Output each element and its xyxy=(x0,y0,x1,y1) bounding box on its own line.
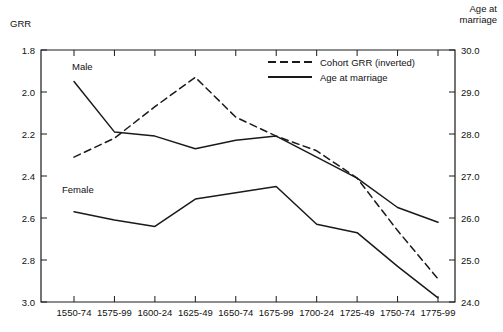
series-line-age-at-marriage-male xyxy=(74,82,438,223)
plot-frame xyxy=(41,50,455,302)
right-axis-tick-label: 30.0 xyxy=(461,45,480,56)
right-axis-tick-label: 27.0 xyxy=(461,171,480,182)
left-axis-tick-label: 2.6 xyxy=(22,213,35,224)
series-annotation-male: Male xyxy=(72,61,93,72)
right-axis-tick-label: 29.0 xyxy=(461,87,480,98)
legend-label-1: Cohort GRR (inverted) xyxy=(320,57,415,68)
legend-label-2: Age at marriage xyxy=(320,72,388,83)
x-axis-tick-label: 1575-99 xyxy=(97,307,132,318)
left-axis-tick-label: 2.2 xyxy=(22,129,35,140)
left-axis-tick-label: 2.0 xyxy=(22,87,35,98)
x-axis-tick-label: 1775-99 xyxy=(421,307,456,318)
left-axis-tick-label: 1.8 xyxy=(22,45,35,56)
left-axis-tick-label: 3.0 xyxy=(22,297,35,308)
x-axis-tick-label: 1550-74 xyxy=(57,307,92,318)
x-axis-tick-label: 1725-49 xyxy=(340,307,375,318)
chart-figure: GRR Age atmarriage 1.82.02.22.42.62.83.0… xyxy=(0,0,503,332)
right-axis-tick-label: 24.0 xyxy=(461,297,480,308)
right-axis-tick-label: 28.0 xyxy=(461,129,480,140)
series-line-age-at-marriage-female xyxy=(74,187,438,298)
x-axis-tick-label: 1650-74 xyxy=(218,307,253,318)
x-axis-tick-label: 1625-49 xyxy=(178,307,213,318)
series-line-cohort-grr-inverted xyxy=(74,77,438,279)
right-axis-tick-label: 26.0 xyxy=(461,213,480,224)
x-axis-tick-label: 1700-24 xyxy=(299,307,334,318)
x-axis-tick-label: 1600-24 xyxy=(137,307,172,318)
right-axis-tick-label: 25.0 xyxy=(461,255,480,266)
plot-area: 1.82.02.22.42.62.83.030.029.028.027.026.… xyxy=(0,0,503,332)
x-axis-tick-label: 1675-99 xyxy=(259,307,294,318)
x-axis-tick-label: 1750-74 xyxy=(380,307,415,318)
left-axis-tick-label: 2.8 xyxy=(22,255,35,266)
series-annotation-female: Female xyxy=(62,184,94,195)
left-axis-tick-label: 2.4 xyxy=(22,171,35,182)
